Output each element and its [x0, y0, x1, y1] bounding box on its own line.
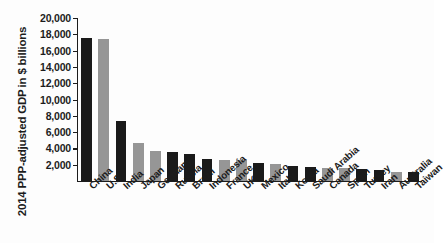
- y-axis-title-line-1: 2014 PPP-adjusted GDP: [16, 89, 29, 216]
- y-axis-tick-label: 10,000: [40, 94, 71, 106]
- y-axis-title-line-2: in $ billions: [16, 27, 29, 88]
- x-axis-category-labels: ChinaU.S.IndiaJapanGermanyRussiaBrazilIn…: [78, 183, 422, 243]
- bar: [98, 39, 109, 181]
- bar-series: [78, 18, 422, 181]
- bar: [81, 38, 92, 181]
- y-axis-tick-label: 6,000: [46, 126, 71, 138]
- y-axis-tick-label: 4,000: [46, 142, 71, 154]
- y-axis-tick-label: 8,000: [46, 110, 71, 122]
- y-axis-tick-label: 20,000: [40, 12, 71, 24]
- y-axis-title: 2014 PPP-adjusted GDP in $ billions: [0, 0, 44, 243]
- y-axis-tick-label: 2,000: [46, 159, 71, 171]
- plot-area: 20,00018,00016,00014,00012,00010,0008,00…: [78, 18, 422, 181]
- y-axis-tick-label: 12,000: [40, 77, 71, 89]
- y-axis-tick-label: 18,000: [40, 28, 71, 40]
- y-axis-tick-label: 14,000: [40, 61, 71, 73]
- y-axis-tick-label: 16,000: [40, 45, 71, 57]
